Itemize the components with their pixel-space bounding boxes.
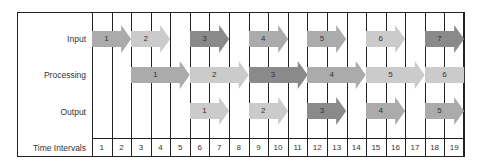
processing-task-arrow: 2	[190, 61, 249, 89]
interval-tick: 8	[229, 139, 249, 157]
task-label: 1	[131, 64, 180, 86]
interval-tick: 14	[347, 139, 367, 157]
task-label: 5	[366, 64, 415, 86]
processing-task-arrow: 4	[307, 61, 366, 89]
task-label: 1	[190, 100, 219, 122]
input-task-arrow: 1	[92, 25, 131, 53]
output-task-arrow: 5	[425, 97, 464, 125]
task-label: 2	[249, 100, 278, 122]
interval-tick: 10	[268, 139, 288, 157]
interval-tick: 12	[307, 139, 327, 157]
interval-tick: 4	[151, 139, 171, 157]
row-label-input: Input	[18, 34, 86, 44]
task-label: 5	[425, 100, 454, 122]
output-task-arrow: 2	[249, 97, 288, 125]
input-task-arrow: 2	[131, 25, 170, 53]
interval-tick: 1	[92, 139, 112, 157]
task-label: 5	[307, 28, 336, 50]
task-label: 4	[366, 100, 395, 122]
grid-line	[464, 12, 465, 157]
interval-tick: 11	[288, 139, 308, 157]
axis-label-time-intervals: Time Intervals	[18, 143, 86, 153]
task-label: 3	[307, 100, 336, 122]
processing-task-arrow: 1	[131, 61, 190, 89]
interval-tick: 15	[366, 139, 386, 157]
interval-tick: 6	[190, 139, 210, 157]
row-label-output: Output	[18, 107, 86, 117]
task-label: 6	[366, 28, 395, 50]
task-label: 4	[249, 28, 278, 50]
input-task-arrow: 6	[366, 25, 405, 53]
processing-task-arrow: 5	[366, 61, 425, 89]
interval-tick: 5	[170, 139, 190, 157]
task-label: 3	[249, 64, 298, 86]
interval-tick: 2	[112, 139, 132, 157]
processing-task-arrow: 3	[249, 61, 308, 89]
task-label: 2	[190, 64, 239, 86]
processing-task-arrow: 6	[425, 61, 464, 89]
task-label: 7	[425, 28, 454, 50]
input-task-arrow: 7	[425, 25, 464, 53]
output-task-arrow: 4	[366, 97, 405, 125]
interval-tick: 13	[327, 139, 347, 157]
input-task-arrow: 3	[190, 25, 229, 53]
interval-tick: 19	[444, 139, 464, 157]
interval-tick: 16	[386, 139, 406, 157]
interval-tick: 3	[131, 139, 151, 157]
task-label: 1	[92, 28, 121, 50]
interval-tick: 9	[249, 139, 269, 157]
output-task-arrow: 1	[190, 97, 229, 125]
input-task-arrow: 4	[249, 25, 288, 53]
row-label-processing: Processing	[18, 70, 86, 80]
interval-tick: 18	[425, 139, 445, 157]
task-label: 6	[425, 64, 464, 86]
task-label: 2	[131, 28, 160, 50]
interval-tick: 7	[209, 139, 229, 157]
input-task-arrow: 5	[307, 25, 346, 53]
task-label: 3	[190, 28, 219, 50]
output-task-arrow: 3	[307, 97, 346, 125]
interval-tick: 17	[405, 139, 425, 157]
task-label: 4	[307, 64, 356, 86]
